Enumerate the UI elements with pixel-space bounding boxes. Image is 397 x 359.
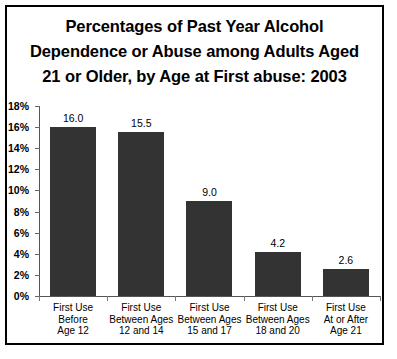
- y-axis-tick-label: 14%: [8, 142, 29, 154]
- y-axis-tick-label: 0%: [14, 290, 29, 302]
- chart-frame: Percentages of Past Year Alcohol Depende…: [5, 5, 384, 345]
- y-axis-tick-label: 16%: [8, 121, 29, 133]
- bars-layer: 16.015.59.04.22.6: [39, 106, 380, 297]
- x-axis-category-label-line: Between Ages: [175, 314, 243, 326]
- plot-area: 0%2%4%6%8%10%12%14%16%18% 16.015.59.04.2…: [39, 106, 380, 297]
- x-axis-category-label-line: 15 and 17: [175, 325, 243, 337]
- bar-value-label: 16.0: [63, 112, 83, 124]
- chart-title-line-3: 21 or Older, by Age at First abuse: 2003: [7, 64, 382, 89]
- y-axis-tick-label: 6%: [14, 227, 29, 239]
- bar-group: 9.0: [175, 106, 243, 296]
- bar-group: 2.6: [312, 106, 380, 296]
- bar[interactable]: [50, 127, 96, 296]
- x-axis-category-label-line: At or After: [312, 314, 380, 326]
- y-axis-tick-label: 12%: [8, 163, 29, 175]
- x-axis-separator-tick: [380, 296, 381, 301]
- x-axis-category-label-line: First Use: [312, 302, 380, 314]
- y-axis-tick-label: 10%: [8, 184, 29, 196]
- bar[interactable]: [323, 269, 369, 296]
- x-axis-category-label-line: First Use: [39, 302, 107, 314]
- chart-title-line-2: Dependence or Abuse among Adults Aged: [7, 39, 382, 64]
- bar[interactable]: [186, 201, 232, 296]
- y-axis-tick-label: 8%: [14, 206, 29, 218]
- x-axis-category-label: First UseBeforeAge 12: [39, 302, 107, 337]
- x-axis-category-label-line: First Use: [244, 302, 312, 314]
- x-axis-category-label: First UseBetween Ages18 and 20: [244, 302, 312, 337]
- x-axis-category-labels: First UseBeforeAge 12First UseBetween Ag…: [39, 302, 380, 342]
- bar[interactable]: [118, 132, 164, 296]
- bar-value-label: 2.6: [339, 254, 354, 266]
- x-axis-category-label-line: First Use: [107, 302, 175, 314]
- y-axis-tick-label: 18%: [8, 100, 29, 112]
- bar[interactable]: [255, 252, 301, 296]
- x-axis-category-label: First UseBetween Ages15 and 17: [175, 302, 243, 337]
- y-axis-tick-label: 4%: [14, 248, 29, 260]
- x-axis-category-label: First UseAt or AfterAge 21: [312, 302, 380, 337]
- bar-value-label: 4.2: [270, 237, 285, 249]
- x-axis-category-label-line: 18 and 20: [244, 325, 312, 337]
- bar-group: 16.0: [39, 106, 107, 296]
- bar-group: 15.5: [107, 106, 175, 296]
- x-axis-category-label-line: Before: [39, 314, 107, 326]
- x-axis-category-label-line: Between Ages: [244, 314, 312, 326]
- bar-value-label: 15.5: [131, 117, 151, 129]
- x-axis-category-label-line: Age 12: [39, 325, 107, 337]
- x-axis-category-label-line: First Use: [175, 302, 243, 314]
- chart-title: Percentages of Past Year Alcohol Depende…: [7, 14, 382, 89]
- x-axis-category-label-line: Between Ages: [107, 314, 175, 326]
- bar-value-label: 9.0: [202, 186, 217, 198]
- x-axis-category-label-line: Age 21: [312, 325, 380, 337]
- x-axis-category-label-line: 12 and 14: [107, 325, 175, 337]
- chart-title-line-1: Percentages of Past Year Alcohol: [7, 14, 382, 39]
- bar-group: 4.2: [244, 106, 312, 296]
- x-axis-category-label: First UseBetween Ages12 and 14: [107, 302, 175, 337]
- y-axis-tick-label: 2%: [14, 269, 29, 281]
